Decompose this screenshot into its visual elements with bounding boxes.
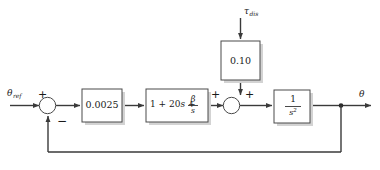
error-sum-minus-sign: − — [57, 114, 67, 128]
plant-numerator: 1 — [285, 94, 301, 104]
disturbance-sum-disturbance-plus: + — [245, 88, 254, 101]
block-diagram-canvas: θref + − 0.0025 1 + 20s+ β s τdis 0.10 +… — [0, 0, 380, 170]
disturbance-input-label: τdis — [244, 6, 258, 16]
output-label: θ — [359, 89, 364, 99]
reference-symbol: θ — [7, 88, 12, 98]
disturbance-gain-block-label: 0.10 — [221, 55, 260, 66]
disturbance-summing-junction[interactable] — [223, 97, 239, 113]
controller-prefix: 1 + 20 — [150, 99, 180, 109]
disturbance-subscript: dis — [249, 10, 258, 17]
controller-denominator: s — [188, 106, 198, 115]
plant-denominator-exponent: 2 — [293, 107, 297, 113]
reference-input-label: θref — [7, 88, 21, 98]
reference-subscript: ref — [13, 92, 22, 99]
gain-block-label: 0.0025 — [82, 99, 122, 110]
plant-denominator: s2 — [285, 108, 301, 117]
error-sum-plus-sign: + — [38, 88, 47, 101]
controller-s-var: s — [180, 99, 185, 109]
disturbance-sum-forward-plus: + — [211, 88, 220, 101]
block-diagram-svg — [0, 0, 380, 170]
controller-numerator: β — [188, 94, 198, 104]
